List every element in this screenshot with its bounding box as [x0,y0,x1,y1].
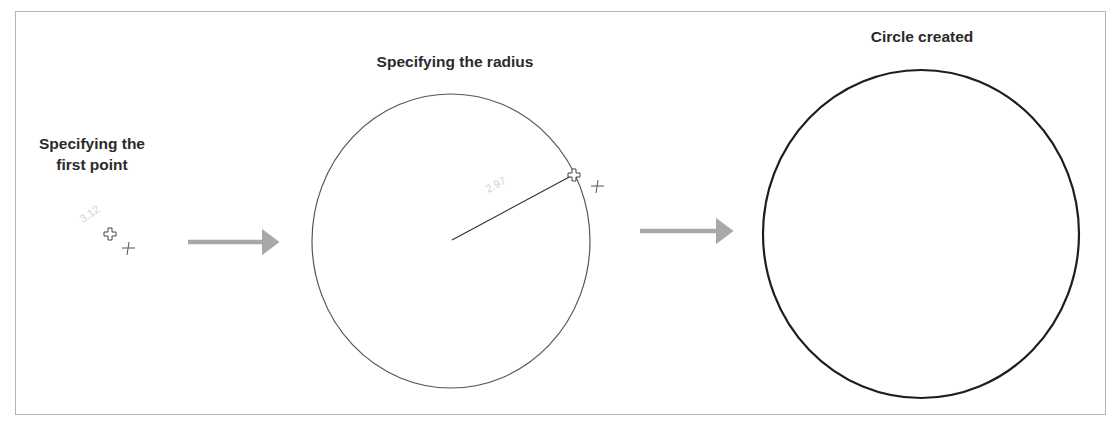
cursor-small-plus-icon [122,242,135,255]
preview-circle [312,94,590,388]
crosshair-plus-icon [104,228,116,240]
stage-2-group: 2.97 [312,94,604,388]
stage-3-group [763,70,1079,398]
stage-1-group: 3.12 [77,203,135,255]
dynamic-input-value-2: 2.97 [483,174,508,195]
radius-line [452,175,573,240]
crosshair-plus-icon-2 [568,169,580,181]
cursor-small-plus-icon-2 [591,180,604,193]
diagram-canvas: 3.12 2.97 [0,0,1118,426]
final-circle [763,70,1079,398]
dynamic-input-value-1: 3.12 [77,203,101,225]
